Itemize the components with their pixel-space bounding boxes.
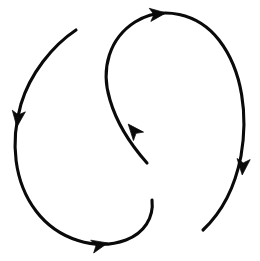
clipped-caption-strip: · · · · · · · · · · · · · · · · · · · · [0, 252, 260, 261]
clipped-caption-text: · · · · · · · · · · · · · · · · · · · · [0, 252, 260, 256]
flow-diagram-canvas [0, 0, 260, 261]
curve-right-path [106, 13, 244, 230]
curve-left-path [15, 30, 152, 244]
figure-root: · · · · · · · · · · · · · · · · · · · · [0, 0, 260, 261]
curve-right-group [106, 6, 250, 230]
